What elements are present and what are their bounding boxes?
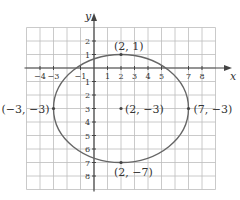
- x-tick-label: 3: [132, 72, 137, 81]
- y-axis-label: y: [84, 10, 92, 23]
- x-tick-label: 2: [118, 72, 123, 81]
- y-tick-label: 7: [85, 159, 90, 168]
- y-axis-arrow-icon: [91, 13, 97, 21]
- data-point: [52, 107, 55, 110]
- data-point: [119, 107, 122, 110]
- x-axis-label: x: [230, 70, 237, 83]
- y-tick-label: 3: [85, 105, 90, 114]
- y-tick-label: 5: [85, 132, 90, 141]
- x-tick-label: 5: [159, 72, 164, 81]
- point-label: (2, 1): [114, 40, 144, 53]
- x-tick-label: 7: [186, 72, 191, 81]
- y-tick-label: 2: [85, 91, 90, 100]
- y-tick-label: 6: [85, 145, 90, 154]
- ellipse-graph: xy−4−3−112345782112345678(2, 1)(−3, −3)(…: [0, 0, 240, 200]
- point-label: (7, −3): [194, 103, 233, 116]
- y-tick-label: 4: [85, 118, 90, 127]
- x-tick-label: −3: [48, 72, 60, 81]
- x-tick-label: 4: [145, 72, 150, 81]
- data-point: [119, 53, 122, 56]
- y-tick-label: 1: [85, 51, 90, 60]
- x-tick-label: 1: [105, 72, 110, 81]
- point-label: (−3, −3): [1, 103, 49, 116]
- y-tick-label: 1: [85, 78, 90, 87]
- y-tick-label: 2: [85, 37, 90, 46]
- x-tick-label: −4: [34, 72, 46, 81]
- data-point: [119, 161, 122, 164]
- y-tick-label: 8: [85, 172, 90, 181]
- data-point: [187, 107, 190, 110]
- point-label: (2, −3): [125, 103, 164, 116]
- point-label: (2, −7): [114, 166, 153, 179]
- x-tick-label: 8: [199, 72, 204, 81]
